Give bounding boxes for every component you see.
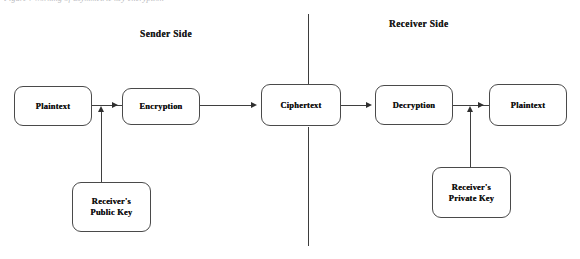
receiver-side-label: Receiver Side [389,19,449,29]
node-plaintext-output: Plaintext [489,84,567,126]
connector-ciphertext-to-decryption [341,105,366,106]
node-receivers-public-key-label: Receiver's Public Key [91,196,133,218]
node-encryption: Encryption [122,88,200,125]
arrowhead-into-plaintext-icon [478,102,484,108]
node-plaintext-output-label: Plaintext [511,100,545,111]
arrowhead-into-ciphertext-icon [251,102,257,108]
node-encryption-label: Encryption [139,101,182,112]
node-ciphertext: Ciphertext [261,84,341,126]
connector-private-key-to-decryption [470,112,471,167]
node-receivers-private-key: Receiver's Private Key [432,167,511,218]
connector-decryption-to-plaintext [453,105,477,106]
connector-public-key-to-encryption [101,112,102,182]
diagram-canvas: Figure : Working of asymmetric key encry… [0,0,580,259]
arrowhead-into-decryption-icon [366,102,372,108]
node-receivers-public-key: Receiver's Public Key [72,182,151,232]
arrowhead-public-key-up-icon [98,106,104,112]
node-ciphertext-label: Ciphertext [280,100,321,111]
node-decryption-label: Decryption [393,100,436,111]
node-plaintext-input-label: Plaintext [36,101,70,112]
node-plaintext-input: Plaintext [14,86,92,126]
figure-caption: Figure : Working of asymmetric key encry… [4,0,244,6]
connector-encryption-to-ciphertext [200,105,251,106]
arrowhead-private-key-up-icon [467,106,473,112]
sender-side-label: Sender Side [140,29,192,39]
node-decryption: Decryption [375,85,453,125]
sender-receiver-divider-bottom [308,127,309,246]
node-receivers-private-key-label: Receiver's Private Key [449,182,494,204]
sender-receiver-divider-top [308,14,309,94]
arrowhead-into-encryption-icon [112,102,118,108]
